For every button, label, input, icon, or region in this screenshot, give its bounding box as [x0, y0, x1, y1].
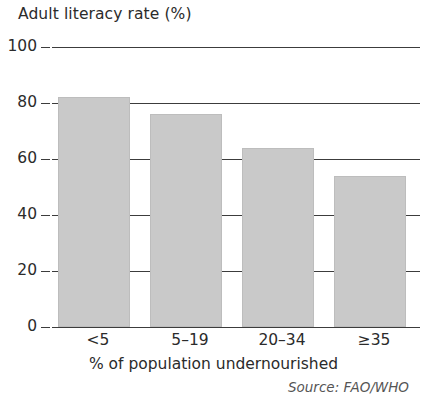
x-tick-label: 20–34	[236, 331, 328, 349]
bar	[242, 148, 314, 327]
y-tick-mark	[41, 103, 50, 104]
y-tick-label: 0	[27, 319, 37, 335]
y-tick-label: 20	[17, 263, 37, 279]
y-tick-label: 60	[17, 151, 37, 167]
bar	[58, 97, 130, 327]
x-tick-label: 5–19	[144, 331, 236, 349]
bar	[334, 176, 406, 327]
x-axis-baseline	[52, 327, 420, 328]
x-tick-label: ≥35	[328, 331, 420, 349]
chart-title: Adult literacy rate (%)	[18, 5, 192, 23]
y-tick-label: 100	[7, 39, 37, 55]
y-tick-mark	[41, 327, 50, 328]
y-tick-label: 40	[17, 207, 37, 223]
y-tick-mark	[41, 271, 50, 272]
bar	[150, 114, 222, 327]
x-axis-label: % of population undernourished	[0, 355, 427, 373]
x-axis-tick-labels: <55–1920–34≥35	[52, 331, 420, 355]
x-tick-label: <5	[52, 331, 144, 349]
plot-area: 020406080100	[52, 47, 420, 327]
source-note: Source: FAO/WHO	[288, 379, 409, 395]
bar-series	[52, 47, 420, 327]
y-tick-mark	[41, 47, 50, 48]
y-tick-label: 80	[17, 95, 37, 111]
y-tick-mark	[41, 159, 50, 160]
y-tick-mark	[41, 215, 50, 216]
chart-figure: Adult literacy rate (%) 020406080100 <55…	[0, 0, 427, 402]
